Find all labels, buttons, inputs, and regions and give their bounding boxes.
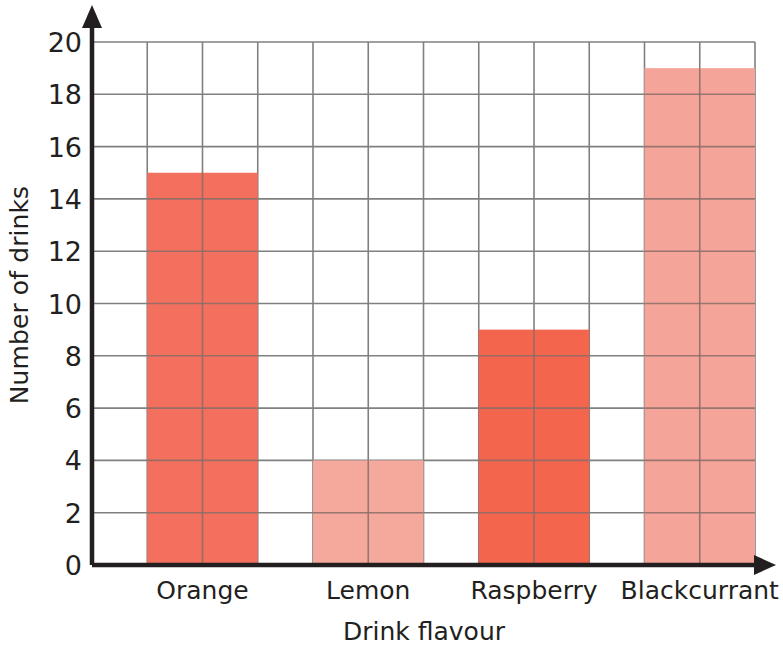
x-axis-title: Drink flavour [92,617,756,646]
y-axis-arrowhead [82,5,102,28]
bars-group [147,68,755,565]
x-tick-label-blackcurrant: Blackcurrant [580,578,783,603]
x-axis-arrowhead [754,555,776,575]
